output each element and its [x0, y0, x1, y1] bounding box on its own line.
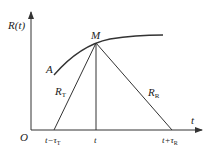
x-axis-label: t — [191, 114, 195, 126]
curve-label-a: A — [45, 63, 53, 75]
right-segment-label: RR — [147, 86, 160, 100]
segment-rr — [96, 43, 172, 130]
origin-label: O — [20, 131, 28, 143]
left-segment-label: RT — [54, 85, 67, 99]
range-diagram: R(t) t O A M RT RR t−τT t t+τR — [0, 0, 210, 149]
y-axis-label: R(t) — [7, 19, 25, 32]
tick-label-right: t+τR — [162, 135, 178, 146]
point-label-m: M — [90, 29, 101, 41]
tick-label-mid: t — [94, 135, 97, 145]
tick-label-left: t−τT — [45, 135, 61, 146]
range-curve — [54, 35, 163, 75]
